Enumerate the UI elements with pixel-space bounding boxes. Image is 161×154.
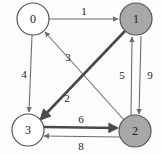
- edge-0-to-3: 4: [21, 35, 32, 112]
- node-2-label: 2: [132, 124, 138, 138]
- edge-0-to-1: 1: [49, 5, 118, 19]
- edge-line-2-1: [131, 37, 132, 115]
- edge-2-to-3: 8: [44, 136, 120, 152]
- node-2[interactable]: 2: [119, 115, 151, 147]
- graph-diagram-canvas: 1 4 3 2 5 9 6: [0, 0, 161, 154]
- node-0-label: 0: [30, 12, 36, 26]
- edge-1-to-2: 9: [139, 36, 153, 114]
- node-3[interactable]: 3: [12, 114, 44, 146]
- edge-line-3-2: [44, 127, 117, 128]
- edge-weight-2-0: 3: [65, 51, 71, 63]
- edge-weight-2-1: 5: [119, 69, 125, 81]
- edge-weight-1-2: 9: [147, 69, 153, 81]
- edge-line-2-3: [44, 136, 120, 137]
- edge-1-to-3: 2: [41, 31, 125, 119]
- edge-weight-0-3: 4: [21, 68, 27, 80]
- edge-weight-3-2: 6: [78, 113, 84, 125]
- edge-weight-2-3: 8: [78, 140, 84, 152]
- edge-weight-1-3: 2: [64, 92, 70, 104]
- graph-svg: 1 4 3 2 5 9 6: [0, 0, 161, 154]
- node-1-label: 1: [133, 12, 139, 26]
- node-1[interactable]: 1: [120, 3, 152, 35]
- edge-line-1-2: [139, 36, 141, 114]
- node-3-label: 3: [25, 123, 31, 137]
- edge-weight-0-1: 1: [81, 5, 87, 17]
- edge-line-1-3: [41, 31, 125, 119]
- edge-line-0-3: [29, 35, 32, 112]
- edge-2-to-1: 5: [119, 37, 132, 115]
- node-0[interactable]: 0: [17, 3, 49, 35]
- edge-3-to-2: 6: [44, 113, 117, 128]
